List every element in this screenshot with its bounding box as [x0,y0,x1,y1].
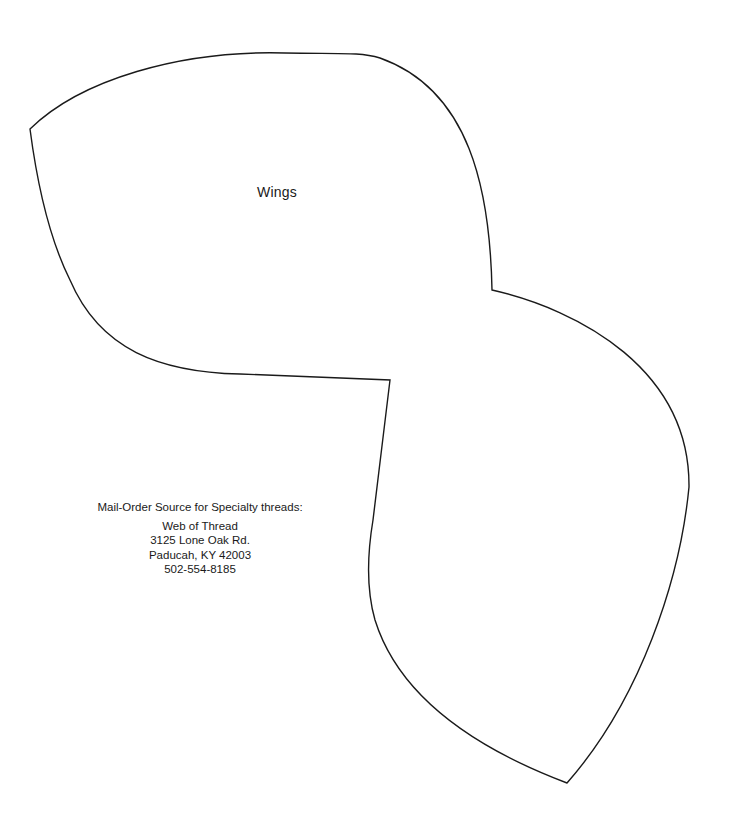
mail-order-source: Mail-Order Source for Specialty threads:… [88,500,312,577]
pattern-page: Wings Mail-Order Source for Specialty th… [0,0,729,833]
source-city-state-zip: Paducah, KY 42003 [88,548,312,563]
wings-pattern-outline [0,0,729,833]
source-name: Web of Thread [88,519,312,534]
wings-shape [30,53,689,783]
piece-label: Wings [257,184,297,200]
source-street: 3125 Lone Oak Rd. [88,533,312,548]
source-phone: 502-554-8185 [88,562,312,577]
source-heading: Mail-Order Source for Specialty threads: [88,500,312,515]
